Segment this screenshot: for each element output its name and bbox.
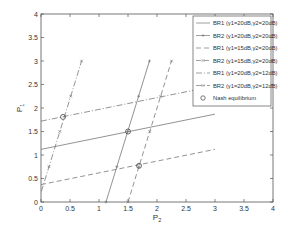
y-tick-label: 0 — [34, 199, 38, 206]
legend-entry: BR2 (γ1=15dB,γ2=20dB) — [213, 58, 278, 64]
series-line — [41, 86, 215, 121]
x-tick-label: 2.5 — [181, 205, 191, 212]
legend-entry: BR1 (γ1=20dB,γ2=12dB) — [213, 70, 278, 76]
y-tick-label: 0.5 — [28, 175, 38, 182]
y-tick-label: 3 — [34, 58, 38, 65]
y-tick-label: 4 — [34, 11, 38, 18]
y-tick-label: 2 — [34, 105, 38, 112]
plot-area: 00.511.522.533.5400.511.522.533.54P2P1BR… — [0, 0, 288, 237]
y-axis-label: P1 — [15, 104, 25, 112]
series-line — [41, 149, 215, 184]
x-tick-label: 0 — [39, 205, 43, 212]
x-tick-label: 3 — [213, 205, 217, 212]
y-tick-label: 2.5 — [28, 81, 38, 88]
legend-entry: Nash equilibrium — [213, 95, 256, 101]
legend-entry: BR2 (γ1=20dB,γ2=12dB) — [213, 83, 278, 89]
x-tick-label: 1.5 — [123, 205, 133, 212]
y-tick-label: 1 — [34, 152, 38, 159]
legend-entry: BR1 (γ1=20dB,γ2=20dB) — [213, 20, 278, 26]
x-tick-label: 3.5 — [239, 205, 249, 212]
x-tick-label: 4 — [271, 205, 275, 212]
legend-entry: BR1 (γ1=15dB,γ2=20dB) — [213, 45, 278, 51]
x-tick-label: 2 — [155, 205, 159, 212]
legend-entry: BR2 (γ1=20dB,γ2=20dB) — [213, 33, 278, 39]
x-tick-label: 1 — [97, 205, 101, 212]
chart: 00.511.522.533.5400.511.522.533.54P2P1BR… — [0, 0, 288, 237]
y-tick-label: 1.5 — [28, 128, 38, 135]
x-axis-label: P2 — [153, 213, 161, 223]
x-tick-label: 0.5 — [65, 205, 75, 212]
y-tick-label: 3.5 — [28, 34, 38, 41]
